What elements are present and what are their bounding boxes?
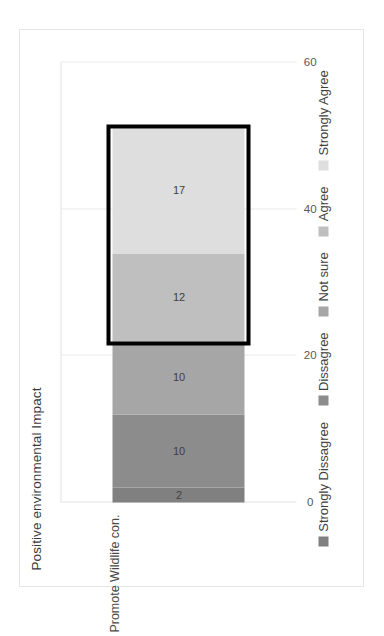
category-axis-label-text: Promote Wildlife con. [107,514,121,636]
bar-value-label: 17 [172,185,184,196]
stacked-bar-promote-wildlife-con[interactable]: 210101217 [112,62,244,502]
legend-swatch-icon [318,306,328,316]
legend-item-strongly-agree[interactable]: Strongly Agree [316,70,329,170]
legend-swatch-icon [318,160,328,170]
bar-segment-strongly-dissagree[interactable]: 2 [112,487,244,502]
chart-figure-frame: Positive environmental Impact 210101217 … [19,29,364,587]
legend-item-label: Strongly Dissagree [316,421,329,531]
legend-swatch-icon [318,226,328,236]
legend-item-dissagree[interactable]: Dissagree [316,332,329,406]
bar-value-label: 12 [172,291,184,302]
legend-item-label: Dissagree [316,332,329,391]
legend-item-label: Strongly Agree [316,70,329,155]
legend-item-label: Agree [316,186,329,221]
rotated-chart-stage: Positive environmental Impact 210101217 … [20,30,363,586]
chart-title: Positive environmental Impact [28,30,43,586]
bar-segment-dissagree[interactable]: 10 [112,414,244,487]
legend-item-label: Not sure [316,252,329,301]
bar-segment-not-sure[interactable]: 10 [112,341,244,414]
bar-value-label: 2 [175,489,181,500]
bar-value-label: 10 [172,372,184,383]
chart-legend: Strongly DissagreeDissagreeNot sureAgree… [316,30,329,586]
legend-swatch-icon [318,536,328,546]
plot-area: 210101217 0204060 [60,62,296,502]
legend-swatch-icon [318,395,328,405]
legend-item-agree[interactable]: Agree [316,186,329,236]
bar-segment-agree[interactable]: 12 [112,253,244,341]
bar-value-label: 10 [172,445,184,456]
bar-segment-strongly-agree[interactable]: 17 [112,128,244,253]
legend-item-not-sure[interactable]: Not sure [316,252,329,316]
legend-item-strongly-dissagree[interactable]: Strongly Dissagree [316,421,329,546]
